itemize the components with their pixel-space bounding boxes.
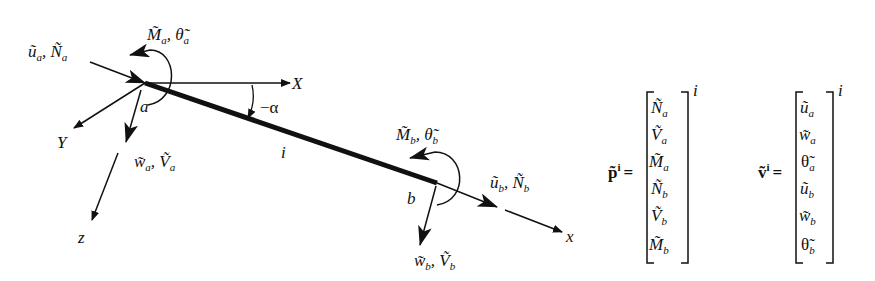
global-x-label: X — [291, 74, 303, 93]
shear-label-a: w̃a, Ṽa — [134, 152, 176, 173]
force-vector-lhs: p̃i= — [608, 161, 633, 182]
local-z-label: z — [77, 228, 85, 247]
displacement-vector-entry: w̃b — [799, 206, 816, 227]
force-vector-entry: Ṽb — [651, 206, 667, 227]
local-x-label: x — [565, 227, 574, 246]
axial-force-arrow-a — [90, 62, 145, 83]
displacement-vector-superscript: i — [838, 81, 843, 100]
angle-label: −α — [260, 98, 279, 117]
node-b-label: b — [407, 189, 416, 208]
shear-force-arrow-a — [126, 90, 141, 142]
axial-label-a: ũa, Ña — [28, 42, 68, 63]
displacement-vector-entry: ũb — [800, 179, 815, 200]
force-vector-superscript: i — [693, 81, 698, 100]
moment-arc-a — [130, 50, 172, 105]
force-vector-right-bracket — [681, 92, 688, 263]
node-a-label: a — [140, 97, 149, 116]
angle-arc — [248, 85, 253, 118]
force-vector-entry: Ña — [650, 98, 668, 119]
displacement-vector-entry: θ̃a — [801, 152, 815, 173]
beam-element — [145, 83, 437, 183]
displacement-vector-equation: ṽi= i ũa w̃a θ̃a ũb w̃b θ̃b — [758, 81, 843, 263]
force-vector-entry: M̃b — [648, 235, 669, 256]
displacement-vector-right-bracket — [826, 92, 833, 263]
shear-label-b: w̃b, Ṽb — [414, 251, 456, 272]
local-x-axis — [505, 210, 562, 232]
moment-label-a: M̃a, θ̃a — [146, 25, 191, 46]
force-vector-entry: M̃a — [648, 152, 669, 173]
element-label: i — [281, 143, 286, 162]
beam-element-diagram: X Y z −α a i b ũa, Ña w̃a, Ṽa M̃a, θ̃a M… — [0, 0, 875, 281]
force-vector-equation: p̃i= i Ña Ṽa M̃a Ñb Ṽb M̃b — [608, 81, 698, 263]
force-vector-entry: Ṽa — [651, 125, 667, 146]
local-z-axis — [92, 153, 118, 220]
displacement-vector-lhs: ṽi= — [758, 161, 782, 182]
moment-label-b: M̃b, θ̃b — [395, 125, 440, 146]
displacement-vector-entry: θ̃b — [801, 235, 815, 256]
axial-label-b: ũb, Ñb — [490, 173, 530, 194]
global-y-label: Y — [57, 133, 68, 152]
displacement-vector-entry: w̃a — [799, 125, 816, 146]
global-y-axis — [74, 83, 145, 128]
force-vector-entry: Ñb — [650, 179, 668, 200]
shear-force-arrow-b — [420, 186, 436, 245]
displacement-vector-entry: ũa — [800, 98, 815, 119]
axial-force-arrow-b — [437, 183, 497, 207]
